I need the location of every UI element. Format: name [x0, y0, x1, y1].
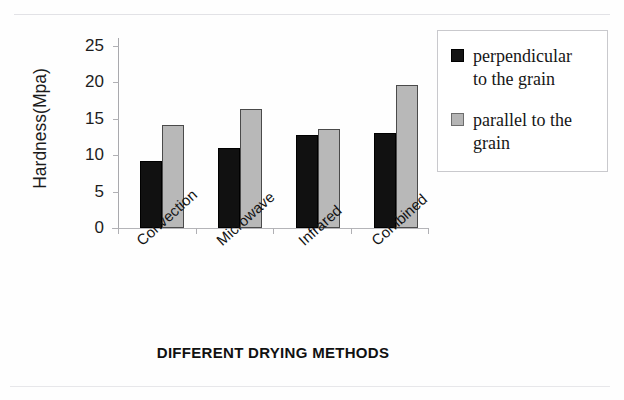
y-tick-4: 20 — [113, 82, 119, 83]
legend-label-perpendicular-line1: perpendicular — [473, 46, 572, 66]
x-tick-0 — [118, 228, 119, 234]
y-tick-2: 10 — [113, 155, 119, 156]
legend-item-parallel: parallel to thegrain — [451, 109, 601, 155]
y-tick-label-2: 10 — [85, 145, 104, 165]
y-tick-label-4: 20 — [85, 72, 104, 92]
legend-label-parallel-line2: grain — [473, 133, 510, 153]
y-axis-line — [118, 38, 119, 228]
y-tick-label-5: 25 — [85, 36, 104, 56]
x-tick-2 — [273, 228, 274, 234]
y-tick-label-0: 0 — [95, 218, 104, 238]
bar-infrared-perpendicular — [296, 135, 318, 228]
y-axis-title: Hardness(Mpa) — [30, 34, 51, 224]
legend: perpendicularto the grain parallel to th… — [437, 30, 608, 172]
legend-label-perpendicular: perpendicularto the grain — [473, 45, 601, 91]
x-tick-4 — [428, 228, 429, 234]
legend-label-parallel: parallel to thegrain — [473, 109, 601, 155]
y-tick-label-3: 15 — [85, 109, 104, 129]
legend-label-parallel-line1: parallel to the — [473, 110, 572, 130]
scan-artifact-line-top — [14, 14, 610, 15]
y-tick-1: 5 — [113, 192, 119, 193]
gray-square-swatch-icon — [451, 113, 464, 126]
y-tick-3: 15 — [113, 119, 119, 120]
legend-label-perpendicular-line2: to the grain — [473, 69, 555, 89]
black-square-swatch-icon — [451, 49, 464, 62]
x-tick-1 — [196, 228, 197, 234]
x-tick-3 — [351, 228, 352, 234]
y-tick-label-1: 5 — [95, 182, 104, 202]
scan-artifact-line-bottom — [10, 386, 610, 387]
legend-item-perpendicular: perpendicularto the grain — [451, 45, 601, 91]
chart-figure: Hardness(Mpa) 0 5 10 15 20 25 — [0, 0, 624, 400]
y-tick-5: 25 — [113, 46, 119, 47]
x-axis-title: DIFFERENT DRYING METHODS — [118, 344, 428, 361]
